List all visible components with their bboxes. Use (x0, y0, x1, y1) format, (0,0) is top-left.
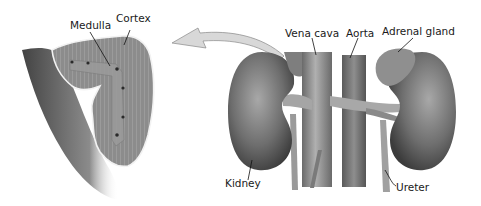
label-medulla: Medulla (70, 20, 111, 31)
label-vena-cava: Vena cava (285, 28, 339, 39)
label-aorta: Aorta (346, 28, 374, 39)
adrenal-cross-section (22, 30, 154, 200)
left-kidney (228, 52, 294, 170)
label-ureter: Ureter (396, 182, 429, 193)
label-kidney: Kidney (225, 178, 261, 189)
right-ureter (380, 120, 390, 192)
label-adrenal-gland: Adrenal gland (382, 26, 455, 37)
adrenal-kidney-diagram: Medulla Cortex Vena cava Aorta Adrenal g… (0, 0, 481, 206)
aorta (342, 55, 366, 187)
label-cortex: Cortex (116, 13, 151, 24)
left-ureter (290, 114, 298, 190)
